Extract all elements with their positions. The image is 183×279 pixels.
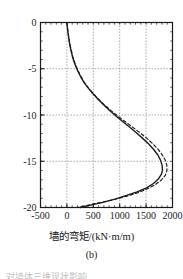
x-tick-label: 1500 [136, 210, 156, 221]
figure-caption: (b) [0, 249, 183, 260]
y-tick-label: -5 [28, 63, 36, 74]
x-tick-label: 500 [86, 210, 101, 221]
x-tick-label: 0 [64, 210, 69, 221]
y-tick-label: -10 [23, 110, 36, 121]
x-tick-label: 1000 [110, 210, 130, 221]
figure-container: -50005001000150020000-5-10-15-20 墙的弯矩/(k… [0, 0, 183, 279]
y-tick-label: -15 [23, 156, 36, 167]
series-solid-curve [67, 23, 163, 208]
x-axis-title: 墙的弯矩/(kN·m/m) [0, 228, 183, 243]
x-tick-label: 2000 [163, 210, 183, 221]
cropped-body-text: 对墙体三维现状影响 [6, 270, 87, 279]
y-tick-label: 0 [32, 17, 37, 28]
y-tick-label: -20 [23, 202, 36, 213]
